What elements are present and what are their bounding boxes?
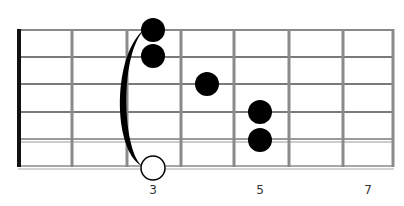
barre-arc xyxy=(120,28,146,166)
dot-string4-fret5 xyxy=(248,100,272,124)
open-dot-string6-fret3 xyxy=(141,156,165,180)
finger-dots xyxy=(141,18,272,180)
fret-label-3: 3 xyxy=(149,183,157,197)
fret-label-5: 5 xyxy=(256,183,264,197)
dot-string1-fret3 xyxy=(141,18,165,42)
dot-string2-fret3 xyxy=(141,44,165,68)
fret-labels: 3 5 7 xyxy=(149,183,372,197)
chord-diagram: 3 5 7 xyxy=(0,0,404,206)
dot-string3-fret4 xyxy=(195,72,219,96)
nut xyxy=(17,29,21,167)
strings xyxy=(18,30,394,169)
dot-string5-fret5 xyxy=(248,128,272,152)
fret-label-7: 7 xyxy=(364,183,372,197)
